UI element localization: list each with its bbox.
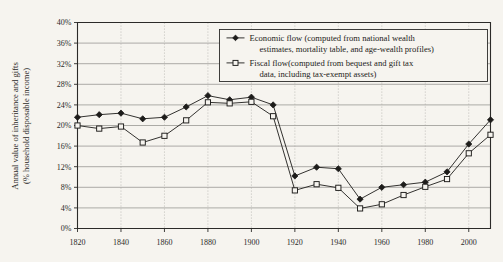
data-point-marker-square (336, 185, 341, 190)
data-point-marker-square (205, 100, 210, 105)
inheritance-flow-line-chart: 0%4%8%12%16%20%24%28%32%36%40% 182018401… (0, 0, 503, 262)
data-point-marker-square (118, 124, 123, 129)
x-tick-label-1940: 1940 (330, 238, 346, 247)
data-point-marker-square (292, 188, 297, 193)
y-tick-label-0: 0% (61, 224, 72, 233)
data-point-marker-square (314, 182, 319, 187)
y-tick-label-12: 12% (57, 163, 72, 172)
data-point-marker-square (249, 99, 254, 104)
y-tick-label-24: 24% (57, 101, 72, 110)
y-tick-label-32: 32% (57, 60, 72, 69)
x-tick-label-1980: 1980 (417, 238, 433, 247)
x-tick-label-1880: 1880 (200, 238, 216, 247)
data-point-marker-square (227, 101, 232, 106)
data-point-marker-square (184, 118, 189, 123)
data-point-marker-square (488, 132, 493, 137)
legend-label-line1: Economic flow (computed from national we… (250, 33, 416, 43)
x-tick-label-1860: 1860 (156, 238, 172, 247)
y-tick-label-20: 20% (57, 121, 72, 130)
data-point-marker-square (401, 192, 406, 197)
y-tick-label-4: 4% (61, 204, 72, 213)
open-square-marker (233, 60, 238, 65)
legend-label-line1: Fiscal flow(computed from bequest and gi… (250, 58, 414, 68)
x-tick-label-1920: 1920 (287, 238, 303, 247)
data-point-marker-square (423, 184, 428, 189)
data-point-marker-square (75, 123, 80, 128)
data-point-marker-square (162, 133, 167, 138)
data-point-marker-square (379, 202, 384, 207)
y-tick-label-40: 40% (57, 18, 72, 27)
data-point-marker-square (271, 114, 276, 119)
y-axis-title: Annual value of inheritance and gifts (%… (10, 62, 31, 190)
data-point-marker-square (97, 126, 102, 131)
x-tick-label-1840: 1840 (113, 238, 129, 247)
y-axis-title-line2: (% household disposable income) (21, 68, 31, 184)
data-point-marker-square (466, 151, 471, 156)
y-axis-title-line1: Annual value of inheritance and gifts (10, 62, 20, 190)
data-point-marker-square (444, 176, 449, 181)
legend-label-line2: estimates, mortality table, and age-weal… (260, 44, 435, 54)
legend-label-line2: data, including tax-exempt assets) (260, 69, 377, 79)
x-tick-label-1820: 1820 (70, 238, 86, 247)
chart-legend: Economic flow (computed from national we… (220, 30, 488, 82)
x-tick-label-1960: 1960 (374, 238, 390, 247)
data-point-marker-square (357, 206, 362, 211)
x-tick-label-1900: 1900 (243, 238, 259, 247)
y-tick-label-36: 36% (57, 39, 72, 48)
chart-page: 0%4%8%12%16%20%24%28%32%36%40% 182018401… (0, 0, 503, 262)
y-tick-label-8: 8% (61, 183, 72, 192)
y-tick-label-28: 28% (57, 80, 72, 89)
data-point-marker-square (140, 140, 145, 145)
y-tick-label-16: 16% (57, 142, 72, 151)
x-tick-label-2000: 2000 (461, 238, 477, 247)
